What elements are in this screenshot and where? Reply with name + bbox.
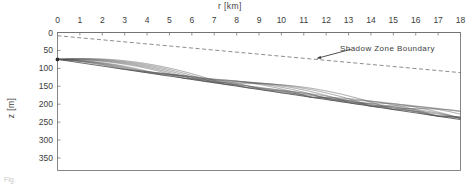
source-marker bbox=[56, 57, 60, 61]
ray-trace-figure: r [km] z [m] 012345678910111213141516171… bbox=[0, 0, 474, 189]
ray-path-10 bbox=[58, 59, 461, 118]
plot-canvas bbox=[0, 0, 474, 189]
bottom-slope-line bbox=[58, 59, 461, 119]
plot-frame bbox=[58, 33, 461, 171]
shadow-zone-annotation-arrow bbox=[317, 49, 351, 58]
ray-path-group bbox=[58, 59, 461, 119]
